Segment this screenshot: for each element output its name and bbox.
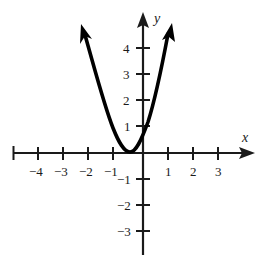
x-tick-label-2: 2 [190, 165, 197, 178]
x-tick-label-neg4: −4 [29, 165, 43, 178]
y-tick-label-neg1: −1 [117, 173, 131, 186]
y-tick-label-3: 3 [123, 68, 130, 81]
y-tick-label-1: 1 [124, 120, 131, 133]
y-tick-label-neg2: −2 [117, 199, 131, 212]
y-tick-label-2: 2 [123, 94, 130, 107]
x-tick-label-1: 1 [165, 165, 172, 178]
x-tick-label-neg3: −3 [54, 165, 68, 178]
y-axis-label: y [154, 12, 160, 26]
x-tick-label-3: 3 [215, 165, 222, 178]
y-tick-label-neg3: −3 [117, 225, 131, 238]
y-tick-label-4: 4 [123, 42, 130, 55]
coordinate-plane [0, 0, 261, 261]
x-tick-label-neg1: −1 [104, 165, 118, 178]
graph-figure: −4 −3 −2 −1 1 2 3 4 3 2 1 −1 −2 −3 y x [0, 0, 261, 261]
x-tick-label-neg2: −2 [79, 165, 93, 178]
x-axis-label: x [242, 131, 248, 145]
